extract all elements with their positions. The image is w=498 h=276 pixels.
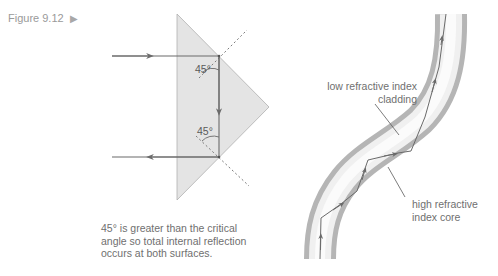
prism (177, 14, 269, 200)
angle-label-bottom: 45° (197, 125, 213, 137)
prism-caption: 45° is greater than the critical angle s… (101, 222, 261, 260)
optical-fibre (290, 0, 490, 276)
reflection-point-bottom (218, 156, 221, 159)
cladding-label: low refractive index cladding (327, 80, 417, 105)
angle-label-top: 45° (195, 63, 211, 75)
core-label: high refractive index core (412, 198, 498, 223)
reflection-point-top (218, 55, 221, 58)
